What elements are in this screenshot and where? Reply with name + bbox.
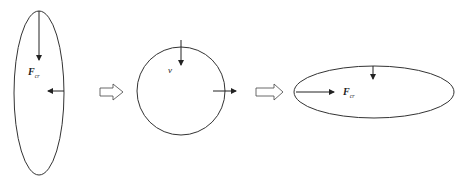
- force-label-stage1: Fcr: [28, 67, 40, 79]
- vertical-ellipse-shape: [14, 11, 64, 175]
- velocity-label-stage2: v: [168, 66, 172, 75]
- circle-shape: [137, 40, 236, 135]
- force-label-stage3: Fcr: [343, 87, 355, 99]
- diagram-canvas: [0, 0, 460, 180]
- horizontal-ellipse-shape: [294, 66, 454, 118]
- hollow-right-arrow-icon: [100, 84, 123, 100]
- hollow-right-arrow-icon: [256, 84, 283, 100]
- deformation-diagram: Fcr v Fcr: [0, 0, 460, 180]
